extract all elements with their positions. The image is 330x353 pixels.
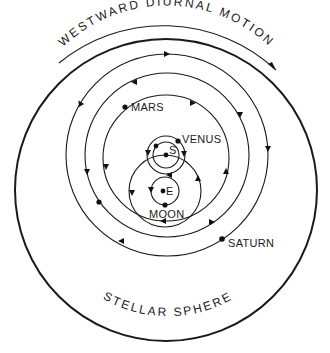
saturn-dot	[219, 236, 225, 242]
sun-label: S	[169, 144, 177, 156]
earth-dot	[161, 189, 166, 194]
mars-label: MARS	[131, 101, 164, 113]
mars-dot	[122, 104, 127, 109]
venus-label: VENUS	[182, 133, 221, 145]
jupiter-dot	[96, 199, 101, 204]
moon-label: MOON	[149, 208, 184, 220]
saturn-label: SATURN	[228, 237, 274, 249]
moon-dot	[162, 202, 167, 207]
stellar-sphere-label: STELLAR SPHERE	[101, 289, 235, 319]
earth-label: E	[166, 185, 174, 197]
venus-inner-dot	[154, 144, 159, 149]
geocentric-diagram: WESTWARD DIURNAL MOTION STELLAR SPHERE M…	[0, 0, 330, 353]
diurnal-motion-arrow	[59, 26, 276, 70]
venus-dot	[175, 138, 180, 143]
sun-dot	[164, 153, 169, 158]
westward-diurnal-motion-label: WESTWARD DIURNAL MOTION	[56, 0, 278, 49]
